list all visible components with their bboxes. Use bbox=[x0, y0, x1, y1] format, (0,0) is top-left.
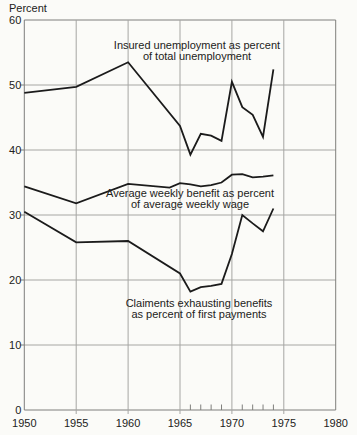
y-axis-tick-label: 20 bbox=[9, 274, 21, 286]
x-axis-tick-label: 1980 bbox=[323, 417, 347, 429]
y-axis-tick-label: 0 bbox=[15, 404, 21, 416]
y-axis-tick-label: 10 bbox=[9, 339, 21, 351]
series-line-claimants-exhausting-benefits bbox=[24, 209, 273, 292]
y-axis-tick-label: 50 bbox=[9, 79, 21, 91]
y-axis-unit-label: Percent bbox=[9, 2, 47, 14]
x-axis-tick-label: 1970 bbox=[220, 417, 244, 429]
y-axis-tick-label: 40 bbox=[9, 144, 21, 156]
series-label-claimants-exhausting-benefits: as percent of first payments bbox=[131, 308, 267, 320]
chart-figure: 0102030405060195019551960196519701975198… bbox=[0, 0, 357, 435]
x-axis-tick-label: 1950 bbox=[12, 417, 36, 429]
x-axis-tick-label: 1955 bbox=[64, 417, 88, 429]
x-axis-tick-label: 1975 bbox=[272, 417, 296, 429]
y-axis-tick-label: 30 bbox=[9, 209, 21, 221]
series-label-average-weekly-benefit: of average weekly wage bbox=[131, 198, 249, 210]
x-axis-tick-label: 1960 bbox=[116, 417, 140, 429]
series-line-insured-unemployment bbox=[24, 62, 273, 154]
x-axis-tick-label: 1965 bbox=[168, 417, 192, 429]
unemployment-insurance-line-chart: 0102030405060195019551960196519701975198… bbox=[0, 0, 357, 435]
series-label-insured-unemployment: of total unemployment bbox=[143, 50, 251, 62]
y-axis-tick-label: 60 bbox=[9, 14, 21, 26]
